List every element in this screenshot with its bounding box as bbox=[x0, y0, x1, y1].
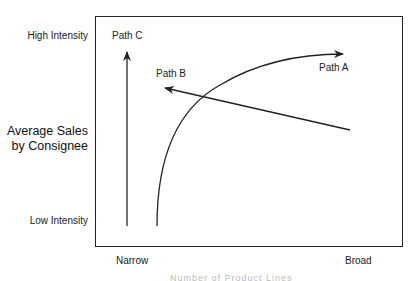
path-c-label: Path C bbox=[112, 30, 143, 42]
path-b-label: Path B bbox=[156, 68, 186, 80]
paths-svg bbox=[0, 0, 417, 281]
path-a-label: Path A bbox=[319, 62, 348, 74]
x-left-label: Narrow bbox=[116, 255, 148, 267]
path-b-arrow bbox=[165, 88, 350, 130]
x-right-label: Broad bbox=[345, 255, 372, 267]
x-axis-caption: Number of Product Lines bbox=[170, 273, 293, 281]
